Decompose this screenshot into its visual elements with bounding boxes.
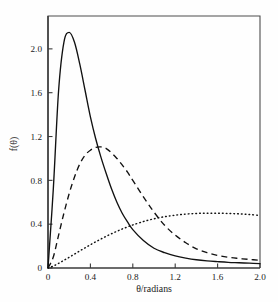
x-tick-label: 0: [46, 272, 51, 282]
y-tick-label: 0: [37, 263, 42, 273]
x-tick-label: 2.0: [254, 272, 266, 282]
x-tick-label: 0.8: [127, 272, 139, 282]
y-axis-title: f(θ): [8, 137, 20, 151]
y-tick-label: 0.8: [31, 176, 43, 186]
y-tick-label: 0.4: [31, 219, 43, 229]
x-tick-label: 1.2: [169, 272, 181, 282]
chart-canvas: 00.40.81.21.62.0 00.40.81.21.62.0 θ/radi…: [0, 0, 278, 302]
x-axis-title: θ/radians: [136, 283, 172, 294]
y-tick-label: 1.2: [31, 132, 43, 142]
x-tick-label: 0.4: [85, 272, 97, 282]
y-tick-label: 2.0: [31, 44, 43, 54]
figure-container: 00.40.81.21.62.0 00.40.81.21.62.0 θ/radi…: [0, 0, 278, 302]
x-tick-label: 1.6: [212, 272, 224, 282]
y-tick-label: 1.6: [31, 88, 43, 98]
